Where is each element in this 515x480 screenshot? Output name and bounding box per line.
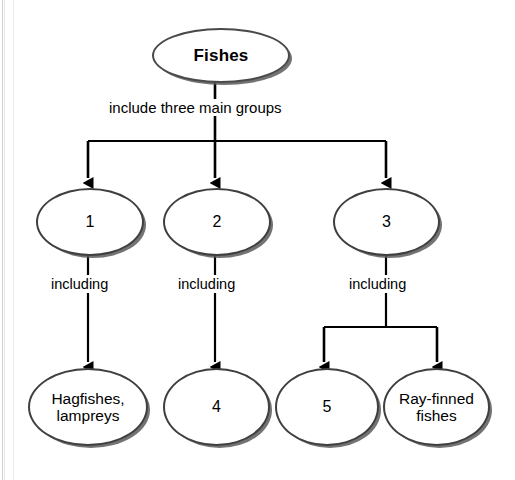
node-leaf-5[interactable]: 5 <box>275 368 379 446</box>
node-group-3-label: 3 <box>376 213 397 231</box>
leaf-line-2: lampreys <box>57 407 120 424</box>
caption-including-group-1: including <box>48 276 111 292</box>
node-leaf-4-label: 4 <box>206 398 227 416</box>
node-leaf-ray-finned-fishes[interactable]: Ray-finned fishes <box>383 368 490 446</box>
node-group-1-label: 1 <box>80 213 101 231</box>
node-group-2[interactable]: 2 <box>163 188 271 256</box>
caption-include-three-main-groups: include three main groups <box>106 99 285 116</box>
node-group-1[interactable]: 1 <box>36 188 144 256</box>
node-leaf-ray-finned-fishes-label: Ray-finned fishes <box>393 390 480 425</box>
node-group-2-label: 2 <box>207 213 228 231</box>
leaf-line-2: fishes <box>416 407 457 424</box>
caption-including-group-2: including <box>175 276 238 292</box>
leaf-line-1: Ray-finned <box>399 390 474 407</box>
node-group-3[interactable]: 3 <box>333 188 440 256</box>
node-leaf-hagfishes-lampreys[interactable]: Hagfishes, lampreys <box>28 368 148 446</box>
caption-including-group-3: including <box>346 276 409 292</box>
leaf-line-1: Hagfishes, <box>51 390 124 407</box>
diagram-canvas: Fishes 1 2 3 Hagfishes, lampreys 4 5 Ray… <box>0 0 515 480</box>
node-leaf-hagfishes-lampreys-label: Hagfishes, lampreys <box>45 390 130 425</box>
node-leaf-4[interactable]: 4 <box>163 368 270 446</box>
node-root-fishes[interactable]: Fishes <box>152 28 290 83</box>
node-leaf-5-label: 5 <box>317 398 338 416</box>
node-root-label: Fishes <box>187 46 254 65</box>
